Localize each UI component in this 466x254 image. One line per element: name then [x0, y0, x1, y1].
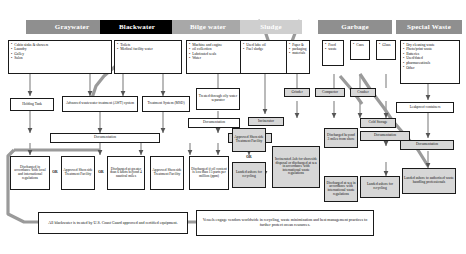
source-box-garbage-cans: Cans: [350, 40, 370, 60]
or-label-sludge: OR: [240, 155, 258, 159]
process-grinder: Grinder: [284, 88, 310, 97]
process-awt-system: Advanced wastewater treatment (AWT) syst…: [62, 96, 138, 112]
list-item: Other: [403, 66, 458, 71]
process-cold-storage: Cold Storage: [360, 118, 396, 128]
documentation-special-waste: Documentation: [400, 140, 454, 150]
outcome-blackwater-shoreside: Approved Shoreside Treatment Facility: [150, 156, 184, 190]
documentation-wastewater: Documentation: [50, 133, 160, 143]
column-header-blackwater: Blackwater: [100, 20, 174, 34]
column-header-bilgewater: Bilge water: [172, 20, 244, 34]
diagram-canvas: Graywater Blackwater Bilge water Sludge …: [0, 0, 466, 254]
column-header-garbage: Garbage: [318, 20, 392, 34]
note-blackwater-treatment: All blackwater is treated by U.S. Coast …: [38, 212, 188, 234]
outcome-special-waste-landed: Landed ashore to authorized waste handli…: [402, 168, 456, 194]
source-box-bilgewater: Machine and engine oil collection Lubric…: [186, 40, 248, 74]
outcome-garbage-discharged-at-sea: Discharged at sea in accordance with int…: [324, 176, 358, 202]
list-item: waste: [325, 47, 342, 52]
outcome-graywater-shoreside: Approved Shoreside Treatment Facility: [61, 156, 95, 190]
list-item: Glass: [379, 43, 394, 48]
note-recycling-practices: Vessels engage vendors worldwide in recy…: [196, 210, 374, 236]
process-holding-tank: Holding Tank: [10, 98, 54, 111]
column-header-sludge: Sludge: [240, 20, 302, 34]
source-box-special-waste: Dry cleaning waste Photo/print waste Bat…: [400, 40, 460, 84]
source-box-sludge: Used lube oil Fuel sludge: [240, 40, 290, 74]
process-compactor: Compactor: [315, 88, 345, 97]
or-label-graywater: OR: [50, 170, 60, 174]
source-box-garbage-food: Food waste: [322, 40, 344, 66]
list-item: Cans: [353, 43, 368, 48]
source-box-blackwater: Toilets Medical facility water: [114, 40, 182, 74]
outcome-bilge-discharge: Discharged if oil content is less than 1…: [189, 156, 229, 190]
list-item: Salon: [11, 56, 110, 61]
source-box-garbage-paper: Paper & packaging materials: [286, 40, 310, 74]
column-header-special-waste: Special Waste: [396, 20, 462, 34]
source-box-garbage-glass: Glass: [376, 40, 396, 60]
process-oily-water-separator: Treated through oily water separator: [196, 88, 240, 110]
list-item: Medical facility water: [117, 47, 180, 52]
list-item: materials: [289, 51, 308, 55]
or-label-blackwater: OR: [96, 170, 106, 174]
documentation-bilge: Documentation: [188, 118, 240, 128]
list-item: Water: [189, 56, 246, 61]
outcome-sludge-shoreside: Approved Shoreside Treatment Facility: [232, 128, 266, 152]
list-item: Fuel sludge: [243, 47, 288, 52]
outcome-garbage-landed-recycling: Landed ashore for recycling: [360, 176, 400, 198]
outcome-sludge-landed: Landed ashore for recycling: [232, 162, 266, 188]
process-msd-system: Treatment System (MSD): [142, 96, 190, 112]
outcome-graywater-discharge: Discharged in accordance with local and …: [10, 156, 50, 190]
process-incinerator: Incinerator: [248, 117, 284, 126]
process-crusher: Crusher: [350, 88, 376, 97]
outcome-garbage-discharged-offshore: Discharged beyond 3 miles from shore: [324, 128, 358, 148]
outcome-blackwater-discharge: Discharged at greater than 6 knots beyon…: [107, 156, 145, 190]
source-box-graywater: Cabin sinks & showers Laundry Galley Sal…: [8, 40, 112, 74]
outcome-sludge-incinerated-ash: Incinerated Ash for shoreside disposal o…: [272, 146, 320, 188]
process-leakproof-containers: Leakproof containers: [396, 102, 454, 113]
